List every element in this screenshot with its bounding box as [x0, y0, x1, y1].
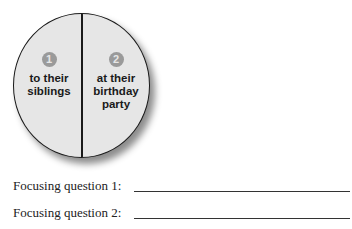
section-2-line-2: birthday [93, 85, 138, 97]
section-2: 2 at their birthday party [84, 52, 148, 111]
number-badge-1: 1 [42, 52, 57, 67]
section-1-line-1: to their [30, 72, 69, 84]
section-2-line-3: party [102, 98, 130, 110]
number-badge-2: 2 [109, 52, 124, 67]
section-1-line-2: siblings [27, 85, 70, 97]
focusing-question-2: Focusing question 2: [13, 205, 121, 221]
split-circle-diagram: 1 to their siblings 2 at their birthday … [13, 13, 151, 158]
focusing-question-1-label: Focusing question 1: [13, 178, 121, 193]
focusing-question-2-label: Focusing question 2: [13, 205, 121, 220]
circle-divider [81, 14, 83, 157]
circle: 1 to their siblings 2 at their birthday … [13, 13, 150, 158]
focusing-question-1: Focusing question 1: [13, 178, 121, 194]
section-1: 1 to their siblings [17, 52, 81, 98]
answer-line-2[interactable] [134, 218, 350, 219]
answer-line-1[interactable] [134, 191, 350, 192]
section-2-line-1: at their [97, 72, 135, 84]
